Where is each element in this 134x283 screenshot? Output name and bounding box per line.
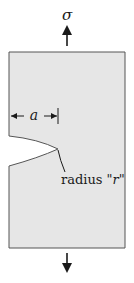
bottom-stress-arrow-icon bbox=[62, 253, 72, 273]
radius-label: radius "r" bbox=[61, 172, 125, 187]
stress-label: σ bbox=[62, 6, 73, 24]
notched-plate-diagram: σ a radius "r" bbox=[0, 0, 134, 283]
plate bbox=[9, 52, 125, 248]
top-stress-arrow-icon bbox=[62, 25, 72, 46]
dimension-a-label: a bbox=[30, 107, 38, 123]
